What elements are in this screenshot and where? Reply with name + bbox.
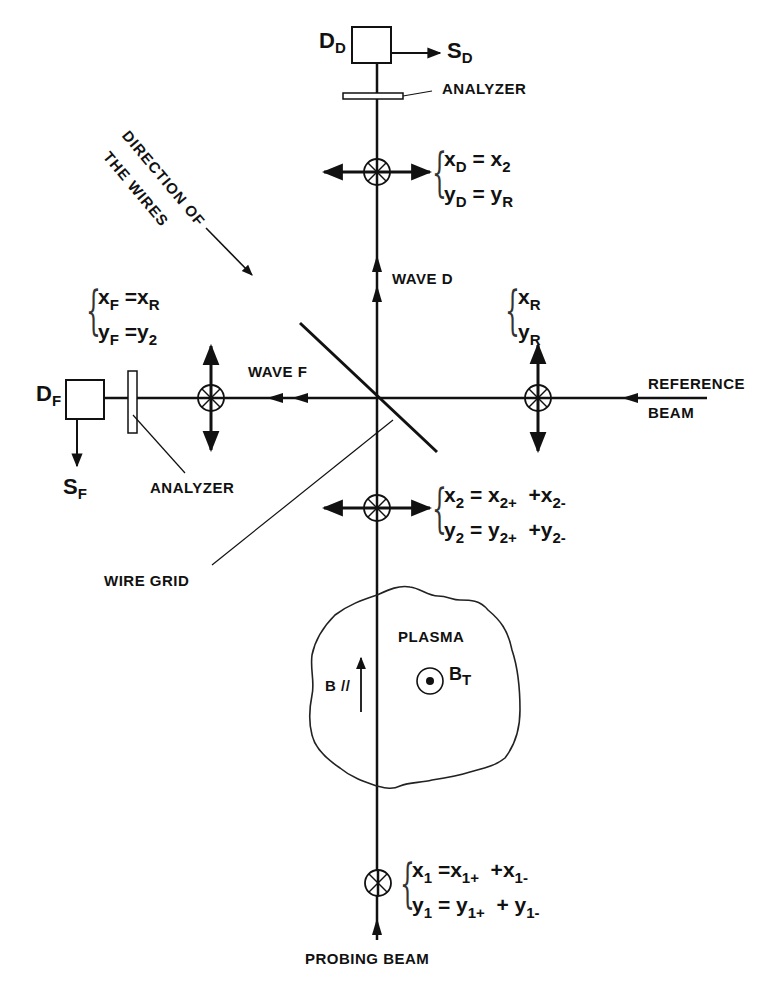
signal-d-label: SD [447,38,473,66]
wave-d-label: WAVE D [392,270,453,287]
equation-wave-2: x2 = x2+ +x2- y2 = y2+ +y2- [444,481,566,551]
wire-grid-label: WIRE GRID [104,572,189,589]
b-parallel-label: B // [325,677,350,694]
signal-f-label: SF [63,474,87,502]
analyzer-top-label: ANALYZER [442,80,526,97]
analyzer-left-label: ANALYZER [150,479,234,496]
b-toroidal-symbol [417,668,443,694]
equation-reference: xR yR [518,283,541,353]
analyzer-left-plate [128,371,137,433]
detector-d-box [352,27,391,63]
reference-beam-label-line1: REFERENCE [648,375,745,392]
equation-detector-d: xD = x2 yD = yR [444,145,513,215]
analyzer-top-leader [403,91,432,96]
detector-d-label: DD [319,28,346,56]
detector-f-label: DF [36,381,61,409]
polarization-symbol-reference [525,345,551,451]
detector-f-box [66,380,104,419]
polarimetry-setup-diagram [0,0,775,995]
polarization-symbol-wave2 [324,495,430,521]
b-toroidal-label: BT [449,664,471,688]
wire-grid-leader [212,420,393,565]
probing-beam-label: PROBING BEAM [305,950,429,967]
analyzer-top-plate [343,93,403,99]
wave-f-label: WAVE F [248,363,307,380]
beam-arrowheads [267,255,638,935]
analyzer-left-leader [133,415,185,473]
polarization-symbol-wave1 [365,870,391,896]
polarization-symbol-f [198,346,224,450]
plasma-label: PLASMA [398,628,464,645]
equation-detector-f: xF =xR yF =y2 [98,283,160,353]
direction-of-wires-arrow [206,228,252,275]
polarization-symbol-d [324,159,430,185]
wire-grid [300,323,437,452]
equation-wave-1: x1 =x1+ +x1- y1 = y1+ + y1- [412,856,540,926]
reference-beam-label-line2: BEAM [648,404,694,421]
